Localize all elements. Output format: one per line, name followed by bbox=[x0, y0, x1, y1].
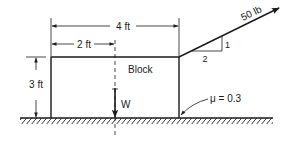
weight-vector: W bbox=[112, 88, 131, 117]
dimension-3ft-label: 3 ft bbox=[29, 79, 43, 90]
slope-rise-label: 1 bbox=[225, 40, 230, 50]
slope-triangle: 1 2 bbox=[192, 36, 230, 64]
dimension-4ft-label: 4 ft bbox=[116, 21, 130, 32]
block-friction-diagram: 4 ft 2 ft 3 ft Block W 50 lb 1 2 μ = 0.3 bbox=[0, 0, 293, 150]
ground bbox=[20, 118, 273, 124]
block-label: Block bbox=[128, 64, 153, 75]
dimension-3ft: 3 ft bbox=[29, 58, 43, 117]
weight-label: W bbox=[121, 99, 131, 110]
slope-run-label: 2 bbox=[202, 54, 207, 64]
dimension-4ft: 4 ft bbox=[52, 21, 178, 32]
force-label: 50 lb bbox=[239, 3, 264, 23]
dimension-2ft-label: 2 ft bbox=[77, 39, 91, 50]
friction-annotation: μ = 0.3 bbox=[181, 93, 241, 115]
dimension-2ft: 2 ft bbox=[52, 39, 114, 50]
friction-label: μ = 0.3 bbox=[210, 93, 241, 104]
